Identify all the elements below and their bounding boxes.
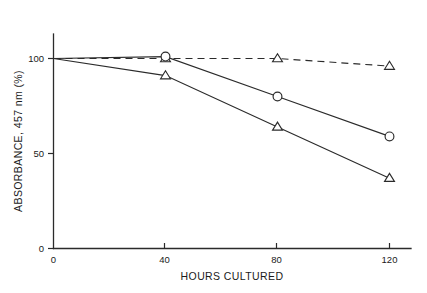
- series-line-moderate-decline: [54, 57, 390, 137]
- marker-triangle: [385, 61, 395, 69]
- x-tick-label-80: 80: [271, 254, 282, 265]
- marker-circle: [385, 132, 394, 141]
- marker-triangle: [273, 122, 283, 130]
- series-line-control: [54, 59, 390, 67]
- series-layer: [54, 52, 395, 181]
- y-tick-label-0: 0: [39, 243, 44, 254]
- x-tick-label-120: 120: [382, 254, 398, 265]
- y-tick-label-50: 50: [33, 148, 44, 159]
- x-tick-label-0: 0: [51, 254, 56, 265]
- y-tick-label-100: 100: [28, 53, 44, 64]
- series-moderate-decline: [54, 52, 394, 141]
- chart-figure: 100 50 0 0 40 80 120 HOURS CULTURED ABSO…: [0, 0, 427, 293]
- marker-triangle: [385, 173, 395, 181]
- x-tick-label-40: 40: [159, 254, 170, 265]
- x-axis-title: HOURS CULTURED: [181, 270, 284, 282]
- marker-circle: [273, 92, 282, 101]
- marker-circle: [161, 52, 170, 61]
- y-axis-ticks: 100 50 0: [28, 53, 53, 254]
- line-chart: 100 50 0 0 40 80 120 HOURS CULTURED ABSO…: [0, 0, 427, 293]
- x-axis-ticks: 0 40 80 120: [51, 243, 398, 265]
- marker-triangle: [273, 54, 283, 62]
- series-control: [54, 54, 395, 70]
- y-axis-title: ABSORBANCE, 457 nm (%): [12, 70, 24, 212]
